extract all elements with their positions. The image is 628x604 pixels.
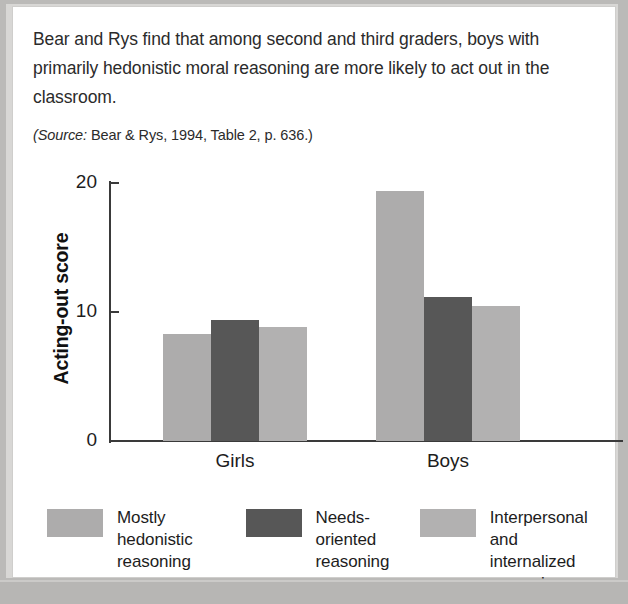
bar <box>211 320 259 441</box>
bars-layer <box>13 7 628 441</box>
bar <box>472 306 520 441</box>
bar <box>259 327 307 441</box>
bar <box>376 191 424 441</box>
bar <box>424 297 472 441</box>
figure-card: Bear and Rys find that among second and … <box>12 6 616 578</box>
scanned-page: Bear and Rys find that among second and … <box>0 0 628 604</box>
bar <box>163 334 211 441</box>
legend-label: Mostly hedonistic reasoning <box>117 507 193 573</box>
legend-swatch <box>47 509 103 537</box>
x-axis-category-label: Boys <box>378 450 518 472</box>
x-axis-category-label: Girls <box>165 450 305 472</box>
legend-swatch <box>420 509 476 537</box>
page-bottom-band <box>0 580 628 604</box>
legend-label: Needs- oriented reasoning <box>316 507 390 573</box>
legend-swatch <box>246 509 302 537</box>
